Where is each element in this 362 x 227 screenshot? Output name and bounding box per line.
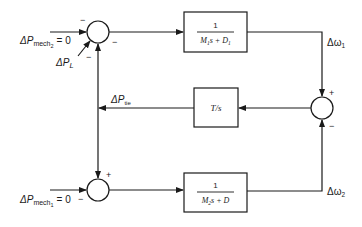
label-load: ΔPL [55, 57, 74, 70]
sign-right-omega1: + [329, 88, 334, 98]
sum-junction-bottom [87, 179, 109, 201]
sum-junction-top [87, 21, 109, 43]
area1-denominator: M1s + D1 [199, 36, 231, 46]
line-omega1 [247, 32, 322, 96]
block-diagram: ΔPmech2= 0 ΔPL ΔPtie ΔPmech1= 0 Δω1 Δω2 … [0, 0, 362, 227]
sign-right-omega2: − [329, 121, 334, 131]
sum-junction-right [311, 97, 333, 119]
label-tie-signal: ΔPtie [110, 94, 131, 106]
area1-numerator: 1 [213, 21, 218, 30]
area2-numerator: 1 [213, 181, 218, 190]
sign-top-tie: − [112, 37, 117, 47]
label-omega1: Δω1 [327, 37, 346, 49]
label-omega2: Δω2 [327, 186, 346, 198]
sign-bottom-mech1: − [78, 194, 83, 204]
label-mech2: ΔPmech2= 0 [19, 35, 71, 49]
sign-bottom-tie: + [106, 170, 111, 180]
sign-top-load: − [86, 52, 91, 62]
sign-top-mech2: − [80, 15, 85, 25]
tie-block-label: T/s [210, 103, 222, 113]
block-area2 [184, 173, 247, 212]
line-omega2 [247, 120, 322, 191]
area2-denominator: M2s + D [201, 196, 230, 206]
label-mech1: ΔPmech1= 0 [19, 194, 71, 208]
